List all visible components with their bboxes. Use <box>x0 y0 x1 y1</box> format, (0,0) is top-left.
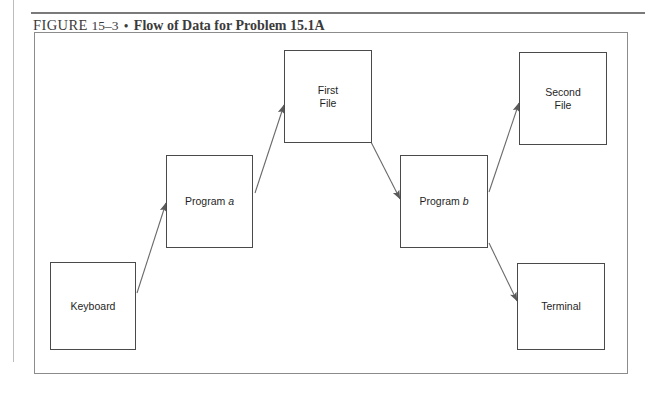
edge-keyboard-to-program-a <box>137 203 166 293</box>
node-terminal: Terminal <box>517 263 605 350</box>
edge-program-a-to-first-file <box>255 105 284 193</box>
node-program-a-label: Program a <box>185 195 234 208</box>
node-program-b-label: Program b <box>419 195 468 208</box>
node-second-file: Second File <box>519 52 607 145</box>
edge-program-b-to-terminal <box>489 243 517 301</box>
node-program-b: Program b <box>400 155 488 248</box>
edge-first-file-to-program-b <box>371 142 400 199</box>
node-second-file-label: Second File <box>545 86 581 112</box>
node-first-file: First File <box>284 50 372 143</box>
node-program-a-label-italic: a <box>228 195 234 207</box>
node-program-a: Program a <box>166 155 253 248</box>
node-keyboard: Keyboard <box>50 262 136 350</box>
node-program-b-label-text: Program <box>419 195 462 207</box>
edge-program-b-to-second-file <box>489 103 519 192</box>
node-program-b-label-italic: b <box>463 195 469 207</box>
node-program-a-label-text: Program <box>185 195 228 207</box>
node-keyboard-label: Keyboard <box>71 300 116 313</box>
node-terminal-label: Terminal <box>541 300 581 313</box>
node-first-file-label: First File <box>318 84 338 110</box>
